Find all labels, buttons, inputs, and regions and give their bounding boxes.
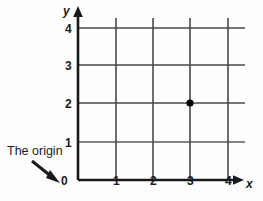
- coordinate-plane-figure: 0 1 2 3 4 1 2 3 4 x y The origin: [0, 0, 263, 201]
- x-tick-label-0: 0: [61, 175, 68, 187]
- y-tick-label-4: 4: [65, 23, 72, 35]
- plot-area: [0, 0, 263, 201]
- origin-annotation-label: The origin: [7, 145, 63, 158]
- x-tick-label-2: 2: [150, 175, 157, 187]
- origin-arrow-head: [46, 170, 60, 183]
- y-tick-label-3: 3: [65, 60, 72, 72]
- x-tick-label-1: 1: [113, 175, 120, 187]
- y-axis: [73, 6, 83, 180]
- origin-callout-arrow-icon: [32, 161, 60, 183]
- x-tick-label-3: 3: [187, 175, 194, 187]
- x-axis-label: x: [246, 178, 253, 190]
- y-tick-label-2: 2: [65, 98, 72, 110]
- y-tick-label-1: 1: [65, 137, 72, 149]
- horizontal-gridlines: [78, 28, 245, 142]
- vertical-gridlines: [116, 18, 228, 180]
- data-point: [186, 99, 193, 106]
- y-axis-label: y: [63, 5, 70, 17]
- x-axis: [78, 175, 244, 185]
- y-axis-arrowhead-icon: [73, 6, 83, 17]
- x-tick-label-4: 4: [225, 175, 232, 187]
- x-axis-arrowhead-icon: [233, 175, 244, 185]
